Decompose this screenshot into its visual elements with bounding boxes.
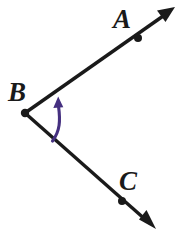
ray-ba [25,7,175,113]
label-a: A [111,4,131,34]
vertex-point-b [21,109,29,117]
label-b: B [7,77,26,107]
angle-arc-path [53,106,60,141]
point-a-dot [134,34,142,42]
ray-ba-line [25,14,166,113]
ray-bc-arrowhead [139,210,156,229]
angle-arc-arrowhead [53,97,63,109]
point-c-dot [118,197,126,205]
geometry-figure: A B C [0,0,178,232]
angle-arc [53,97,64,142]
label-c: C [119,166,138,196]
angle-diagram-canvas: A B C [0,0,178,232]
